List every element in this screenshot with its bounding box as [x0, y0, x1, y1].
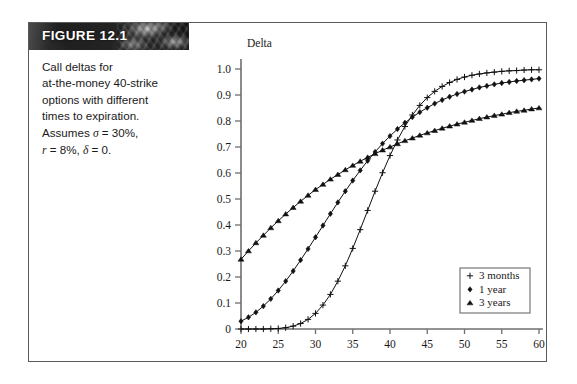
marker-plus: [514, 67, 520, 73]
marker-diamond: [418, 109, 422, 114]
marker-plus: [298, 320, 304, 326]
marker-plus: [268, 326, 274, 332]
marker-diamond: [440, 97, 444, 102]
marker-plus: [439, 83, 445, 89]
caption-line-1: Call deltas for: [42, 59, 182, 75]
marker-plus: [365, 207, 371, 213]
series-3-years: [238, 105, 542, 261]
marker-plus: [528, 67, 534, 73]
delta-vs-stock-price-chart: Delta Stock Price ($) 202530354045505560…: [189, 23, 548, 361]
marker-triangle: [335, 172, 341, 176]
x-tick-label: 55: [496, 338, 508, 350]
marker-plus: [454, 76, 460, 82]
marker-diamond: [462, 89, 466, 94]
marker-plus: [379, 170, 385, 176]
marker-plus: [484, 70, 490, 76]
figure-frame: FIGURE 12.1 Call deltas for at-the-money…: [28, 22, 547, 362]
marker-diamond: [485, 83, 489, 88]
y-tick-label: 0.5: [217, 193, 232, 205]
y-axis-title-group: Delta: [247, 37, 272, 49]
marker-diamond: [515, 78, 519, 83]
x-tick-label: 50: [459, 338, 471, 350]
figure-number-banner: FIGURE 12.1: [29, 23, 189, 50]
y-tick-label: 0.8: [217, 115, 232, 127]
x-tick-label: 45: [422, 338, 434, 350]
marker-triangle: [536, 105, 542, 109]
marker-plus: [506, 68, 512, 74]
marker-plus: [469, 72, 475, 78]
y-tick-label: 0.4: [217, 219, 232, 231]
marker-plus: [357, 227, 363, 233]
marker-diamond: [239, 319, 243, 324]
marker-plus: [350, 245, 356, 251]
marker-diamond: [477, 85, 481, 90]
y-tick-label: 1.0: [217, 63, 232, 75]
marker-diamond: [492, 82, 496, 87]
marker-plus: [476, 71, 482, 77]
x-tick-label: 35: [347, 338, 359, 350]
marker-diamond: [425, 105, 429, 110]
marker-diamond: [522, 77, 526, 82]
marker-triangle: [350, 163, 356, 167]
chart-panel: Delta Stock Price ($) 202530354045505560…: [189, 23, 546, 361]
x-tick-label: 20: [235, 338, 247, 350]
marker-plus: [275, 325, 281, 331]
caption-line-6: r = 8%, δ = 0.: [42, 142, 182, 159]
y-axis-ticks-group: 00.10.20.30.40.50.60.70.80.91.0: [217, 63, 241, 335]
y-tick-label: 0.6: [217, 167, 232, 179]
x-tick-label: 30: [310, 338, 322, 350]
marker-diamond: [455, 91, 459, 96]
x-tick-label: 60: [533, 338, 545, 350]
x-tick-label: 40: [384, 338, 396, 350]
legend-label-1-year: 1 year: [479, 283, 507, 295]
marker-diamond: [507, 79, 511, 84]
marker-plus: [253, 326, 259, 332]
marker-plus: [521, 67, 527, 73]
marker-triangle: [327, 177, 333, 181]
caption-line-3: options with different: [42, 92, 182, 108]
marker-plus: [327, 291, 333, 297]
series-line: [241, 108, 539, 259]
y-axis-title: Delta: [247, 37, 272, 49]
marker-diamond: [447, 94, 451, 99]
marker-plus: [447, 79, 453, 85]
marker-plus: [461, 74, 467, 80]
marker-triangle: [357, 159, 363, 163]
figure-caption-panel: FIGURE 12.1 Call deltas for at-the-money…: [29, 23, 189, 361]
y-tick-label: 0.1: [217, 297, 232, 309]
chart-legend: 3 months1 year3 years: [460, 268, 530, 313]
marker-plus: [372, 188, 378, 194]
y-tick-label: 0.7: [217, 141, 232, 153]
marker-diamond: [254, 310, 258, 315]
marker-triangle: [342, 167, 348, 171]
caption-line-2: at-the-money 40-strike: [42, 75, 182, 91]
legend-label-3-years: 3 years: [479, 296, 510, 308]
x-tick-label: 25: [273, 338, 285, 350]
marker-diamond: [537, 76, 541, 81]
marker-diamond: [470, 87, 474, 92]
caption-line-4: times to expiration.: [42, 108, 182, 124]
marker-plus: [342, 263, 348, 269]
figure-caption-text: Call deltas for at-the-money 40-strike o…: [42, 59, 182, 159]
marker-plus: [260, 326, 266, 332]
marker-diamond: [500, 80, 504, 85]
legend-label-3-months: 3 months: [479, 269, 520, 281]
marker-plus: [238, 326, 244, 332]
y-tick-label: 0.9: [217, 89, 232, 101]
marker-diamond: [433, 101, 437, 106]
marker-plus: [491, 69, 497, 75]
y-tick-label: 0: [225, 323, 231, 335]
caption-line-5: Assumes σ = 30%,: [42, 125, 182, 142]
y-tick-label: 0.2: [217, 271, 232, 283]
marker-plus: [283, 325, 289, 331]
marker-diamond: [529, 77, 533, 82]
marker-plus: [335, 278, 341, 284]
marker-plus: [499, 68, 505, 74]
x-axis-ticks-group: 202530354045505560: [235, 329, 545, 350]
marker-diamond: [246, 315, 250, 320]
marker-plus: [245, 326, 251, 332]
figure-number-label: FIGURE 12.1: [42, 28, 127, 43]
marker-plus: [536, 67, 542, 73]
y-tick-label: 0.3: [217, 245, 232, 257]
marker-triangle: [365, 155, 371, 159]
